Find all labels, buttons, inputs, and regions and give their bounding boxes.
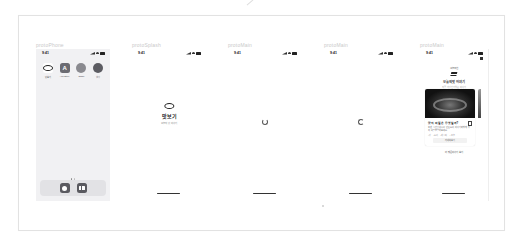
dock-app-books[interactable] (77, 183, 87, 193)
screen-edge-divider (488, 49, 489, 201)
app-name: 설정 (96, 75, 100, 79)
menu-icon[interactable] (480, 57, 483, 60)
read-more-button[interactable]: 자세히 보기 (433, 138, 467, 143)
tag[interactable]: #레시피 (440, 134, 447, 137)
story-image (425, 89, 475, 118)
home-indicator[interactable] (349, 193, 372, 195)
signal-icon (282, 52, 287, 55)
wifi-icon (288, 52, 291, 54)
device-feed-screen: 9:41 오늘 추천 오늘의 맛 이야기 지금 가장 인기있는 이야기 맛의 비… (420, 49, 488, 201)
loading-spinner-icon (358, 119, 364, 125)
story-title: 맛의 비밀은 무엇일까? (428, 121, 472, 125)
story-card[interactable]: 맛의 비밀은 무엇일까? 오랜 시간 정성으로 만든 요리 이야기와 함께 맛의… (425, 89, 475, 146)
status-time: 9:41 (330, 51, 337, 55)
status-bar: 9:41 (324, 51, 398, 57)
feed-title: 오늘의 맛 이야기 (420, 79, 488, 84)
signal-icon (378, 52, 383, 55)
feed-eyebrow: 오늘 추천 (420, 66, 488, 70)
app-store-icon: A (60, 63, 70, 73)
splash-title: 맛보기 (162, 112, 177, 119)
safari-icon (76, 63, 86, 73)
signal-icon (468, 52, 473, 55)
app-settings[interactable]: 설정 (91, 63, 105, 79)
battery-icon (196, 52, 201, 55)
device-loading-screen: 9:41 (324, 49, 398, 201)
battery-icon (100, 52, 105, 55)
status-time: 9:41 (234, 51, 241, 55)
status-bar: 9:41 (228, 51, 302, 57)
app-safari[interactable]: Safari (74, 63, 88, 79)
app-name: 맛보기 (45, 75, 51, 79)
home-indicator[interactable] (442, 193, 465, 195)
status-bar: 9:41 (420, 51, 488, 57)
battery-icon (292, 52, 297, 55)
canvas-dot (322, 205, 324, 207)
device-label: protoPhone (36, 42, 64, 48)
tag[interactable]: #맛 (428, 134, 431, 137)
status-time: 9:41 (138, 51, 145, 55)
app-name: Safari (78, 75, 84, 77)
home-indicator[interactable] (157, 193, 180, 195)
status-time: 9:41 (42, 51, 49, 55)
signal-icon (90, 52, 95, 55)
book-app-icon (79, 186, 85, 190)
app-tasting[interactable]: 맛보기 (41, 63, 55, 79)
home-indicator[interactable] (253, 193, 276, 195)
wifi-icon (96, 52, 99, 54)
device-label: protoMain (420, 42, 444, 48)
splash-subtitle: 오늘의 맛 이야기 (161, 121, 176, 125)
device-loading-screen: 9:41 (228, 49, 302, 201)
next-story-card[interactable] (478, 89, 488, 146)
brand-stamp-icon (450, 71, 457, 76)
signal-icon (186, 52, 191, 55)
status-bar: 9:41 (132, 51, 206, 57)
status-time: 9:41 (426, 51, 433, 55)
device-splash-screen: 9:41 맛보기 오늘의 맛 이야기 (132, 49, 206, 201)
device-home-screen[interactable]: 9:41 맛보기 A App Store Safari 설정 (36, 49, 110, 201)
app-app-store[interactable]: A App Store (58, 63, 72, 79)
tag[interactable]: #요리 (433, 134, 438, 137)
wifi-icon (384, 52, 387, 54)
story-body: 오랜 시간 정성으로 만든 요리 이야기와 함께 맛의 비밀을 알아보세요. (428, 126, 472, 132)
loading-spinner-icon (262, 119, 268, 125)
settings-icon (93, 63, 103, 73)
device-label: protoMain (228, 42, 252, 48)
dock-app-phone[interactable] (60, 183, 70, 193)
lips-icon (43, 63, 53, 73)
battery-icon (388, 52, 393, 55)
splash-logo: 맛보기 오늘의 맛 이야기 (161, 103, 176, 125)
wifi-icon (474, 52, 477, 54)
app-name: App Store (60, 75, 70, 77)
device-label: protoSplash (132, 42, 161, 48)
wifi-icon (192, 52, 195, 54)
bookmark-icon[interactable] (468, 121, 473, 126)
story-tags: #맛 #요리 #레시피 #오늘 (428, 134, 472, 137)
battery-icon (478, 52, 483, 55)
device-label: protoMain (324, 42, 348, 48)
status-bar: 9:41 (36, 51, 110, 57)
dock (40, 180, 106, 196)
circle-app-icon (62, 186, 67, 191)
lips-icon (164, 103, 174, 109)
app-grid: 맛보기 A App Store Safari 설정 (41, 63, 105, 79)
more-stories-link[interactable]: 더 많은 이야기 보기 (420, 150, 488, 154)
decorative-mark (247, 0, 254, 5)
tag[interactable]: #오늘 (449, 134, 454, 137)
